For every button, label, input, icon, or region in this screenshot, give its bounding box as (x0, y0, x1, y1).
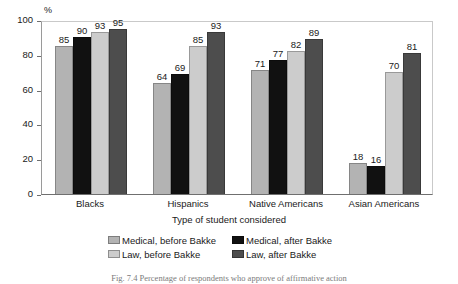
legend-item-law-before: Law, before Bakke (108, 249, 232, 260)
bar-fill (189, 46, 207, 194)
bar-fill (287, 51, 305, 194)
y-axis-tick-label: 20 (22, 153, 33, 164)
bar-chart-figure: % 020406080100 8590939564698593717782891… (0, 0, 458, 284)
bar: 90 (73, 20, 91, 194)
bar-group: 71778289 (251, 22, 323, 194)
bar-group: 64698593 (153, 22, 225, 194)
figure-caption: Fig. 7.4 Percentage of respondents who a… (0, 272, 458, 284)
bar-value-label: 85 (193, 34, 204, 45)
bar-fill (367, 166, 385, 194)
x-axis-title: Type of student considered (0, 214, 458, 225)
bar-fill (251, 70, 269, 194)
bar-group-bars: 85909395 (55, 22, 127, 194)
bar: 77 (269, 20, 287, 194)
bar: 85 (189, 20, 207, 194)
bar-value-label: 69 (175, 62, 186, 73)
bar-value-label: 64 (157, 71, 168, 82)
bar-value-label: 70 (389, 60, 400, 71)
bar: 93 (207, 20, 225, 194)
x-axis-category-label: Hispanics (167, 198, 208, 209)
legend-label-law-after: Law, after Bakke (246, 249, 316, 260)
bar-fill (55, 46, 73, 194)
y-axis-tick-mark (37, 195, 41, 196)
bar-value-label: 93 (211, 20, 222, 31)
bar-value-label: 93 (95, 20, 106, 31)
legend-item-medical-after: Medical, after Bakke (232, 235, 350, 246)
bar-value-label: 85 (59, 34, 70, 45)
y-axis-tick-label: 80 (22, 49, 33, 60)
bar: 81 (403, 20, 421, 194)
bar-value-label: 77 (273, 48, 284, 59)
bar-fill (171, 74, 189, 194)
legend-swatch-law-after (232, 250, 244, 258)
bar-value-label: 95 (113, 17, 124, 28)
chart-legend: Medical, before Bakke Medical, after Bak… (0, 233, 458, 261)
bar: 71 (251, 20, 269, 194)
bar-fill (349, 163, 367, 194)
legend-item-medical-before: Medical, before Bakke (108, 235, 232, 246)
bar: 70 (385, 20, 403, 194)
bar: 64 (153, 20, 171, 194)
bar-fill (109, 29, 127, 194)
bar-value-label: 90 (77, 25, 88, 36)
legend-label-medical-before: Medical, before Bakke (122, 235, 216, 246)
bar: 82 (287, 20, 305, 194)
y-axis-tick-label: 60 (22, 84, 33, 95)
bar-fill (269, 60, 287, 194)
bar-fill (153, 83, 171, 194)
bar-value-label: 18 (353, 151, 364, 162)
x-axis-category-label: Blacks (76, 198, 104, 209)
bar-group-bars: 64698593 (153, 22, 225, 194)
bar-group-bars: 71778289 (251, 22, 323, 194)
x-axis-category-label: Asian Americans (349, 198, 420, 209)
bar-fill (403, 53, 421, 194)
legend-item-law-after: Law, after Bakke (232, 249, 350, 260)
bar-value-label: 81 (407, 41, 418, 52)
y-axis-tick-label: 40 (22, 118, 33, 129)
legend-row-2: Law, before Bakke Law, after Bakke (0, 247, 458, 261)
bar-fill (305, 39, 323, 194)
bar-value-label: 89 (309, 27, 320, 38)
legend-label-medical-after: Medical, after Bakke (246, 235, 332, 246)
bar: 89 (305, 20, 323, 194)
bar: 69 (171, 20, 189, 194)
legend-label-law-before: Law, before Bakke (122, 249, 200, 260)
bar-fill (385, 72, 403, 194)
bar-value-label: 82 (291, 39, 302, 50)
x-axis-category-label: Native Americans (249, 198, 323, 209)
bar: 16 (367, 20, 385, 194)
legend-row-1: Medical, before Bakke Medical, after Bak… (0, 233, 458, 247)
bar-value-label: 71 (255, 58, 266, 69)
y-axis-tick-label: 100 (17, 14, 33, 25)
bar-fill (91, 32, 109, 194)
bar-group-bars: 18167081 (349, 22, 421, 194)
bar-fill (207, 32, 225, 194)
bar: 85 (55, 20, 73, 194)
bar-fill (73, 37, 91, 194)
bar: 93 (91, 20, 109, 194)
bar-group: 18167081 (349, 22, 421, 194)
bar-group: 85909395 (55, 22, 127, 194)
bar-value-label: 16 (371, 154, 382, 165)
bar: 18 (349, 20, 367, 194)
bar: 95 (109, 20, 127, 194)
y-axis-tick-label: 0 (28, 188, 33, 199)
plot-area: 85909395646985937177828918167081 (41, 21, 433, 195)
legend-swatch-medical-after (232, 236, 244, 244)
y-axis-unit-label: % (44, 5, 52, 15)
legend-swatch-medical-before (108, 236, 120, 244)
legend-swatch-law-before (108, 250, 120, 258)
